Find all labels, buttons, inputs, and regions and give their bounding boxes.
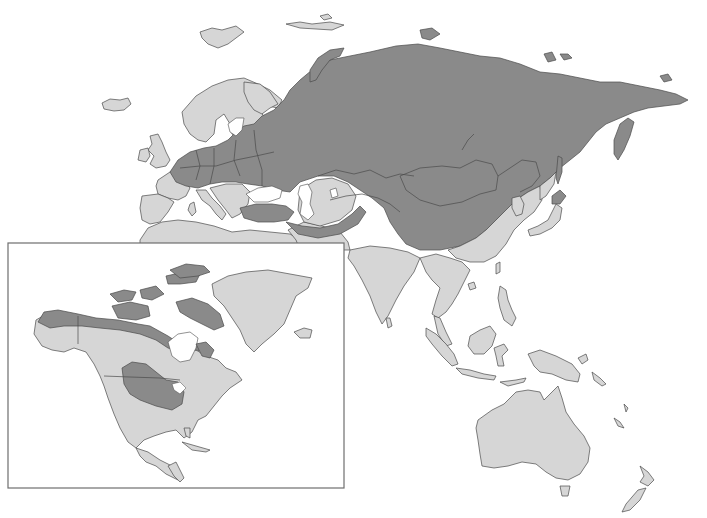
inset-north-america	[8, 243, 344, 488]
turkey-range	[240, 204, 294, 222]
taiwan	[496, 262, 500, 274]
range-map	[0, 0, 707, 518]
tasmania	[560, 486, 570, 496]
